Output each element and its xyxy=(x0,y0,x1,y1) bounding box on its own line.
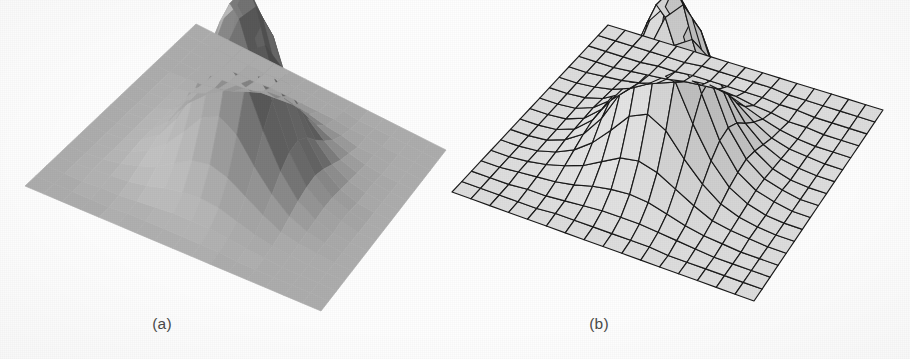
panel-caption-b: (b) xyxy=(559,315,639,333)
surface-plot-flat-shaded xyxy=(0,0,455,312)
surface-plot-wireframe-canvas xyxy=(440,0,910,312)
panel-caption-a: (a) xyxy=(122,315,202,333)
surface-plot-wireframe xyxy=(440,0,910,312)
surface-plot-flat-shaded-canvas xyxy=(0,0,455,312)
figure-root: (a) (b) xyxy=(0,0,910,359)
